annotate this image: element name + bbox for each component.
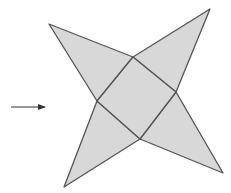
pyramid-net-diagram [0,0,231,193]
